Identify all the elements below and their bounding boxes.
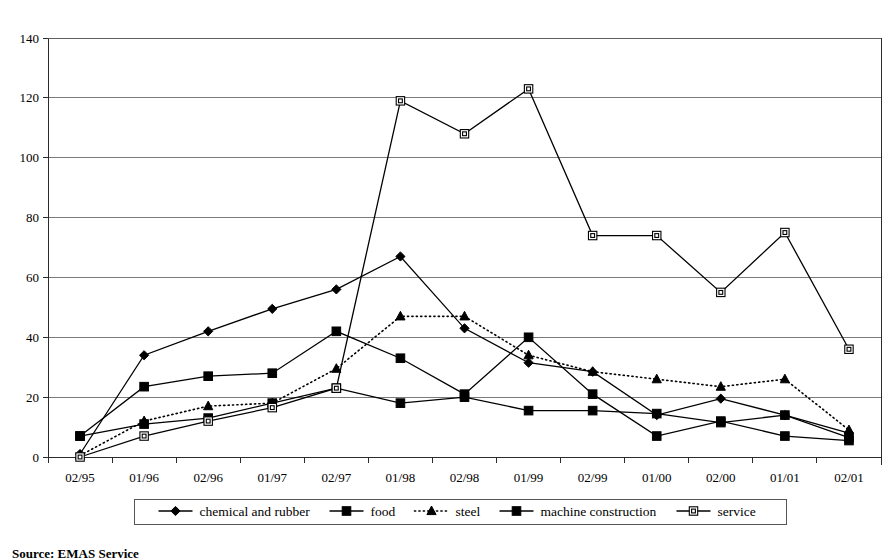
y-tick-label: 80 [26, 210, 39, 225]
marker-square [512, 507, 521, 516]
marker-square-open-inner [719, 290, 723, 294]
y-axis-ticks: 020406080100120140 [20, 31, 49, 465]
marker-diamond [204, 327, 213, 336]
marker-square [781, 432, 790, 441]
legend-label: service [718, 504, 756, 519]
x-tick-label: 02/95 [65, 470, 95, 485]
marker-square-open-inner [591, 234, 595, 238]
marker-diamond [332, 285, 341, 294]
legend-item[interactable]: steel [415, 504, 481, 519]
marker-square [396, 399, 405, 408]
chart-container: 020406080100120140 02/9501/9602/9601/970… [0, 0, 896, 560]
marker-diamond [140, 351, 149, 360]
marker-square [588, 406, 597, 415]
series-service [76, 85, 853, 462]
source-label: Source: EMAS Service [12, 546, 139, 560]
y-tick-label: 0 [33, 450, 40, 465]
marker-square [588, 390, 597, 399]
x-tick-label: 02/00 [706, 470, 736, 485]
legend-item[interactable]: food [330, 504, 396, 519]
marker-triangle [780, 374, 789, 383]
legend-label: machine construction [541, 504, 657, 519]
marker-square-open-inner [655, 234, 659, 238]
legend-label: steel [456, 504, 481, 519]
x-tick-label: 02/97 [322, 470, 352, 485]
x-tick-label: 02/96 [193, 470, 223, 485]
y-tick-label: 20 [26, 390, 39, 405]
y-tick-label: 120 [20, 90, 40, 105]
y-tick-label: 40 [26, 330, 39, 345]
marker-diamond [524, 358, 533, 367]
marker-triangle [524, 350, 533, 359]
marker-square-open-inner [463, 132, 467, 136]
x-tick-label: 01/01 [770, 470, 800, 485]
marker-square [396, 354, 405, 363]
marker-square [204, 372, 213, 381]
marker-square [717, 418, 726, 427]
x-tick-label: 01/99 [514, 470, 544, 485]
gridlines [48, 38, 881, 397]
marker-square [332, 327, 341, 336]
line-chart: 020406080100120140 02/9501/9602/9601/970… [0, 0, 896, 560]
x-tick-label: 01/97 [257, 470, 287, 485]
marker-square-open-inner [783, 231, 787, 235]
marker-square [76, 432, 85, 441]
marker-diamond [171, 506, 180, 515]
legend-item[interactable]: service [677, 504, 756, 519]
marker-square [268, 369, 277, 378]
x-tick-label: 01/00 [642, 470, 672, 485]
x-tick-label: 02/98 [450, 470, 480, 485]
legend-item[interactable]: machine construction [500, 504, 657, 519]
legend-label: chemical and rubber [200, 504, 311, 519]
marker-square [140, 420, 149, 429]
marker-square-open-inner [847, 347, 851, 351]
marker-square-open-inner [692, 509, 696, 513]
marker-square [652, 432, 661, 441]
y-tick-label: 60 [26, 270, 39, 285]
marker-square [652, 409, 661, 418]
marker-square [524, 333, 533, 342]
data-series-group [75, 85, 853, 462]
series-food [76, 327, 854, 445]
x-axis-ticks: 02/9501/9602/9601/9702/9701/9802/9801/99… [48, 457, 881, 485]
source-note: Source: EMAS Service [12, 546, 139, 560]
marker-square-open-inner [78, 455, 82, 459]
marker-square [140, 382, 149, 391]
chart-legend: chemical and rubberfoodsteelmachine cons… [134, 499, 786, 524]
marker-diamond [268, 304, 277, 313]
marker-square-open-inner [270, 406, 274, 410]
marker-square [781, 411, 790, 420]
x-tick-label: 01/96 [129, 470, 159, 485]
marker-square [845, 433, 854, 442]
marker-square [460, 393, 469, 402]
x-tick-label: 01/98 [386, 470, 416, 485]
marker-square [524, 406, 533, 415]
marker-square-open-inner [334, 386, 338, 390]
x-tick-label: 02/99 [578, 470, 608, 485]
x-tick-label: 02/01 [834, 470, 864, 485]
series-machine-construction [76, 384, 854, 442]
marker-square-open-inner [206, 419, 210, 423]
marker-triangle [844, 425, 853, 434]
marker-square-open-inner [399, 99, 403, 103]
legend-item[interactable]: chemical and rubber [159, 504, 311, 519]
y-tick-label: 100 [20, 150, 40, 165]
legend-label: food [371, 504, 396, 519]
y-tick-label: 140 [20, 31, 40, 46]
marker-diamond [716, 394, 725, 403]
series-chemical-and-rubber [75, 252, 853, 459]
marker-square-open-inner [142, 434, 146, 438]
marker-square-open-inner [527, 87, 531, 91]
marker-square [342, 507, 351, 516]
